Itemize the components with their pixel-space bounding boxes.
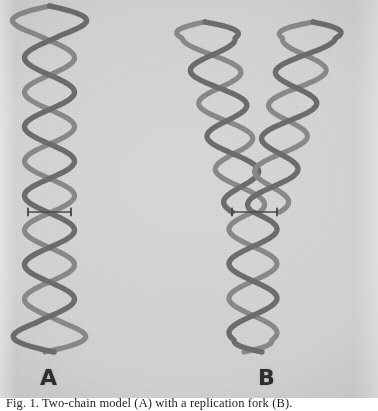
- figure-root: A B Fig. 1. Two-chain model (A) with a r…: [0, 0, 378, 411]
- helix-b-branch-right: [248, 22, 341, 212]
- helix-b-branch-left: [177, 22, 265, 212]
- panel-label-b: B: [258, 365, 275, 390]
- figure-caption-strip: Fig. 1. Two-chain model (A) with a repli…: [0, 398, 378, 411]
- helix-a: [12, 6, 86, 352]
- helix-b-stem: [229, 212, 277, 352]
- helix-b-stem-strand-front: [229, 212, 277, 352]
- helix-diagram: [0, 0, 378, 398]
- panel-label-a: A: [40, 365, 58, 390]
- figure-caption-text: Fig. 1. Two-chain model (A) with a repli…: [6, 398, 292, 411]
